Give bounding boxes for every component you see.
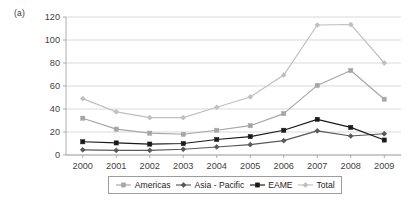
y-tick-label: 60 <box>50 81 60 91</box>
x-tick-label: 2002 <box>140 161 160 171</box>
legend-entry-eame[interactable]: EAME <box>249 180 293 190</box>
data-point <box>382 138 386 142</box>
y-tick-label: 20 <box>50 127 60 137</box>
y-tick-label: 100 <box>45 35 60 45</box>
legend-entry-americas[interactable]: Americas <box>115 180 170 190</box>
x-tick-label: 2009 <box>374 161 394 171</box>
x-tick-label: 2005 <box>240 161 260 171</box>
x-tick-label: 2004 <box>207 161 227 171</box>
series-total <box>80 22 386 120</box>
data-point <box>147 148 152 153</box>
legend-point <box>255 183 259 187</box>
data-point <box>114 127 118 131</box>
legend-marker-icon <box>175 180 192 190</box>
data-point <box>215 137 219 141</box>
data-point <box>181 141 185 145</box>
series-line <box>83 131 385 151</box>
data-point <box>282 112 286 116</box>
x-tick-label: 2007 <box>307 161 327 171</box>
data-point <box>81 116 85 120</box>
legend-entry-total[interactable]: Total <box>297 180 335 190</box>
data-point <box>315 128 320 133</box>
data-point <box>349 68 353 72</box>
legend-entry-asia-pacific[interactable]: Asia - Pacific <box>175 180 244 190</box>
data-point <box>181 147 186 152</box>
data-point <box>214 145 219 150</box>
series-line <box>83 24 385 117</box>
legend-marker-icon <box>297 180 314 190</box>
y-tick-label: 0 <box>55 150 60 160</box>
data-point <box>81 140 85 144</box>
data-point <box>148 131 152 135</box>
data-point <box>281 138 286 143</box>
data-point <box>80 147 85 152</box>
data-point <box>148 142 152 146</box>
data-point <box>147 115 152 120</box>
data-point <box>315 83 319 87</box>
y-axis-tick-labels: 020406080100120 <box>45 12 60 160</box>
x-tick-label: 2000 <box>73 161 93 171</box>
y-tick-label: 120 <box>45 12 60 22</box>
data-point <box>181 115 186 120</box>
data-point <box>114 109 119 114</box>
data-point <box>315 117 319 121</box>
data-point <box>114 141 118 145</box>
data-point <box>215 128 219 132</box>
y-tick-label: 80 <box>50 58 60 68</box>
legend-point <box>303 183 308 188</box>
legend-point <box>181 183 186 188</box>
legend-label: Total <box>317 181 335 190</box>
chart-legend: AmericasAsia - PacificEAMETotal <box>108 176 342 194</box>
data-series-group <box>80 22 386 153</box>
legend-label: EAME <box>268 181 292 190</box>
data-point <box>248 124 252 128</box>
chart-plot-area: 020406080100120 200020012002200320042005… <box>0 0 415 204</box>
legend-marker-icon <box>249 180 266 190</box>
data-point <box>382 97 386 101</box>
data-point <box>348 134 353 139</box>
data-point <box>282 128 286 132</box>
x-tick-label: 2008 <box>341 161 361 171</box>
legend-marker-icon <box>115 180 132 190</box>
data-point <box>80 96 85 101</box>
x-tick-label: 2006 <box>274 161 294 171</box>
line-chart-svg: 020406080100120 200020012002200320042005… <box>0 0 415 204</box>
x-axis-tick-labels: 2000200120022003200420052006200720082009 <box>73 161 395 171</box>
x-tick-label: 2001 <box>106 161 126 171</box>
y-tick-label: 40 <box>50 104 60 114</box>
data-point <box>349 125 353 129</box>
data-point <box>181 132 185 136</box>
figure-panel-a: (a) 020406080100120 20002001200220032004… <box>0 0 415 204</box>
data-point <box>114 148 119 153</box>
legend-label: Asia - Pacific <box>195 181 245 190</box>
data-point <box>248 135 252 139</box>
x-tick-label: 2003 <box>173 161 193 171</box>
data-point <box>248 142 253 147</box>
legend-label: Americas <box>135 181 171 190</box>
legend-point <box>122 183 126 187</box>
